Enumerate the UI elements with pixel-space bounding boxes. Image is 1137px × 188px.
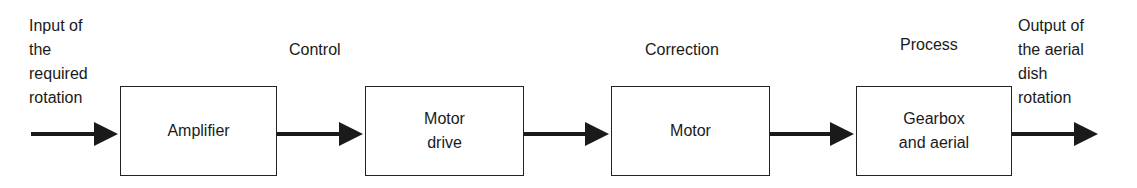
input-label: Input of the required rotation bbox=[29, 14, 88, 110]
output-label: Output of the aerial dish rotation bbox=[1018, 14, 1084, 110]
signal-label-process: Process bbox=[900, 33, 958, 57]
block-amplifier: Amplifier bbox=[120, 86, 277, 176]
block-motor-drive: Motor drive bbox=[365, 86, 524, 176]
block-motor: Motor bbox=[611, 86, 770, 176]
signal-label-control: Control bbox=[289, 38, 341, 62]
block-gearbox-and-aerial: Gearbox and aerial bbox=[856, 86, 1012, 176]
signal-label-correction: Correction bbox=[645, 38, 719, 62]
